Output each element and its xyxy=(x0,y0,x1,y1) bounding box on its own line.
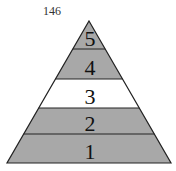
level-4-label: 4 xyxy=(85,55,96,80)
level-1-label: 1 xyxy=(85,139,96,164)
level-5-label: 5 xyxy=(85,26,96,51)
pyramid-diagram: 5 4 3 2 1 xyxy=(0,0,176,171)
level-2-label: 2 xyxy=(85,111,96,136)
level-3-label: 3 xyxy=(85,84,96,109)
